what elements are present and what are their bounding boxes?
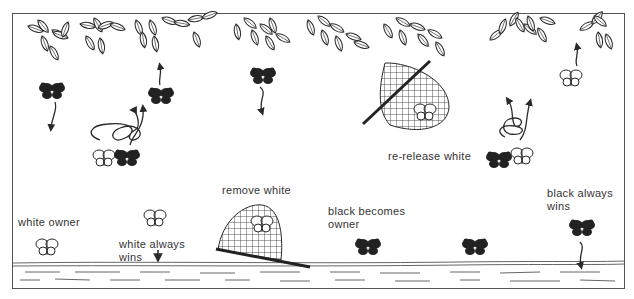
butterfly-black-always-wins: [569, 220, 595, 267]
ground: [13, 261, 625, 281]
canopy: [27, 10, 614, 62]
leaf-cluster-4: [233, 16, 291, 52]
label-white-always-wins-line1: white always: [119, 238, 185, 251]
label-remove-white: remove white: [222, 184, 291, 197]
label-black-becomes-owner-line2: owner: [328, 218, 359, 231]
spiral-flight-left: [91, 108, 143, 166]
leaf-cluster-8: [579, 10, 615, 50]
label-re-release-white: re-release white: [388, 150, 471, 163]
leaf-cluster-1: [27, 18, 71, 61]
leaf-cluster-3: [133, 10, 218, 53]
butterfly-white-upper-right: [560, 46, 582, 86]
butterfly-black-upper-left: [39, 83, 65, 129]
label-white-owner: white owner: [18, 216, 80, 229]
net-remove-white: [216, 205, 310, 267]
leaf-cluster-2: [79, 17, 126, 55]
butterfly-black-becomes-owner: [355, 239, 381, 256]
butterfly-white-owner: [36, 239, 58, 255]
label-black-becomes-owner-line1: black becomes: [328, 205, 405, 218]
net-capture-white: [363, 61, 449, 130]
butterfly-black-upper-center: [250, 68, 276, 113]
butterfly-black-ground-right: [462, 239, 488, 256]
label-black-always-wins-line2: wins: [547, 200, 570, 213]
butterfly-black-upper-left-center: [148, 66, 174, 104]
diagram-artwork: [0, 0, 634, 299]
leaf-cluster-7: [488, 11, 556, 44]
leaf-cluster-6: [381, 15, 446, 57]
spiral-flight-right: [486, 100, 533, 168]
label-white-always-wins-line2: wins: [119, 251, 142, 264]
label-black-always-wins-line1: black always: [547, 187, 613, 200]
leaf-cluster-5: [305, 14, 370, 52]
